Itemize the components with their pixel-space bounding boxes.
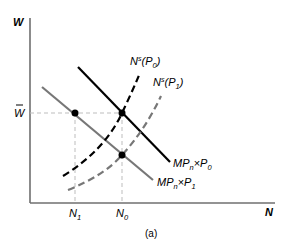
wage-label: W bbox=[14, 105, 26, 119]
labor-demand-p1-curve bbox=[42, 87, 153, 180]
labor-demand-p1-label: MPn×P1 bbox=[157, 176, 196, 191]
equilibrium-point-n0-wbar bbox=[119, 110, 126, 117]
x-axis-label: N bbox=[265, 206, 274, 218]
labor-market-diagram: W N W N1 N0 Ns(P0) Ns(P1) MPn×P0 MPn×P1 … bbox=[0, 0, 292, 248]
labor-demand-p0-label: MPn×P0 bbox=[173, 157, 212, 172]
tick-n0: N0 bbox=[116, 207, 129, 222]
labor-supply-p0-label: Ns(P0) bbox=[130, 55, 161, 70]
equilibrium-point-n0-p1 bbox=[119, 152, 126, 159]
figure-caption: (a) bbox=[145, 228, 157, 239]
tick-n1: N1 bbox=[69, 207, 81, 222]
equilibrium-point-n1 bbox=[72, 110, 79, 117]
svg-text:W: W bbox=[14, 107, 26, 119]
y-axis-label: W bbox=[13, 16, 25, 28]
labor-supply-p1-label: Ns(P1) bbox=[153, 76, 184, 91]
